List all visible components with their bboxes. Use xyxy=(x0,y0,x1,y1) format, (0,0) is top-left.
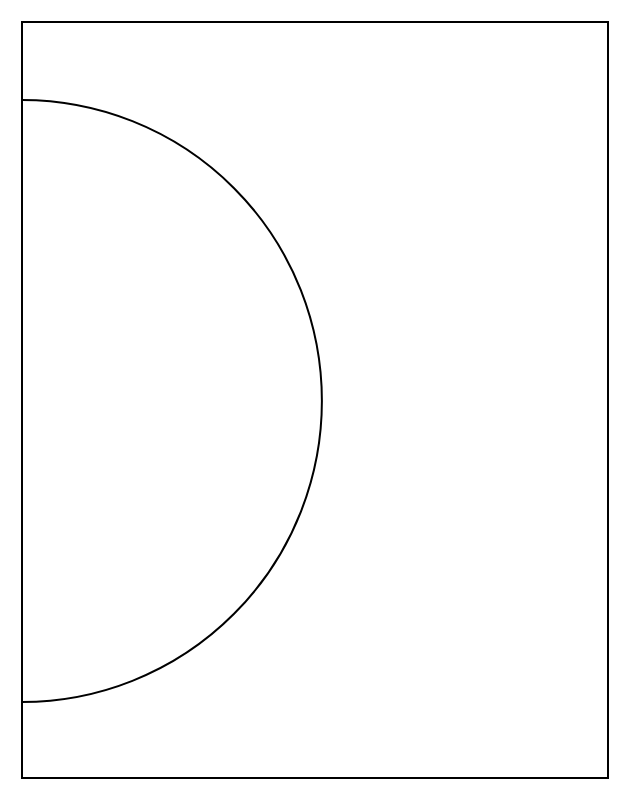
page-border-rectangle xyxy=(22,22,608,778)
figure-canvas xyxy=(0,0,630,798)
figure-svg xyxy=(0,0,630,798)
